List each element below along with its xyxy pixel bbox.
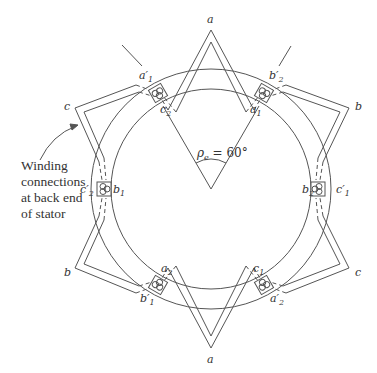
leader-line-top-left <box>122 45 142 66</box>
slot-label-a1prime: a′1 <box>139 69 153 84</box>
slot-label-b1: b1 <box>113 183 125 198</box>
slot-label-a2: a2 <box>161 262 173 277</box>
star-label-lower-right: c <box>355 266 361 279</box>
callout-text: Winding connections at back end of stato… <box>21 158 85 222</box>
slot-label-c2: c2 <box>160 103 171 118</box>
angle-label: ρe = 60° <box>196 146 248 162</box>
slot-b1-c2prime <box>97 182 111 196</box>
slot-label-a2prime: a′2 <box>270 292 284 307</box>
callout-line-4: of stator <box>21 206 85 222</box>
leader-line-top-right <box>279 46 291 66</box>
star-label-upper-left: c <box>64 100 70 113</box>
callout-line-2: connections <box>21 174 85 190</box>
slot-c2-a1prime <box>148 83 167 102</box>
callout-line-1: Winding <box>21 158 85 174</box>
star-label-bottom: a <box>207 353 214 366</box>
star-label-top: a <box>207 13 214 26</box>
slot-a2-b1prime <box>148 275 167 294</box>
callout-line-3: at back end <box>21 190 85 206</box>
slot-label-a1: a1 <box>250 103 262 118</box>
slot-label-b2prime: b′2 <box>269 69 284 84</box>
callout-arrowhead <box>70 124 78 130</box>
star-label-upper-right: b <box>355 100 362 113</box>
slot-label-c1: c1 <box>253 262 264 277</box>
star-label-lower-left: b <box>64 266 71 279</box>
slot-a1-b2prime <box>254 83 273 102</box>
slot-label-c1prime: c′1 <box>336 183 350 198</box>
callout-arrow <box>40 126 76 160</box>
